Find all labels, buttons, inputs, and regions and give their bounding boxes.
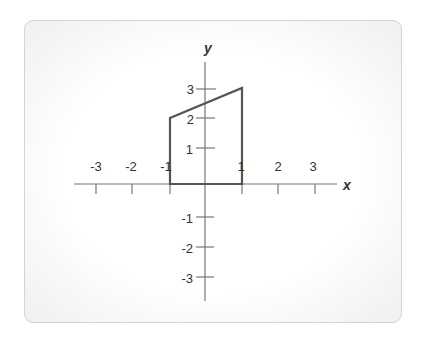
- coordinate-plane: -3 -2 -1 1 2 3 3 2 1 -1 -2 -3 x y: [0, 0, 421, 341]
- x-tick-label: -2: [125, 159, 137, 174]
- x-tick-label: 3: [309, 159, 316, 174]
- y-tick-label: -1: [181, 211, 193, 226]
- x-tick-label: 2: [274, 159, 281, 174]
- x-tick-label: -1: [160, 159, 172, 174]
- y-tick-label: 1: [186, 142, 193, 157]
- trapezoid-shape: [170, 88, 242, 184]
- y-tick-label: 3: [187, 82, 194, 97]
- y-tick-label: -2: [181, 241, 193, 256]
- y-tick-label: 2: [187, 112, 194, 127]
- x-tick-label: 1: [237, 159, 244, 174]
- x-axis-label: x: [342, 177, 352, 193]
- x-tick-label: -3: [90, 159, 102, 174]
- y-axis-label: y: [203, 40, 213, 56]
- y-tick-label: -3: [181, 271, 193, 286]
